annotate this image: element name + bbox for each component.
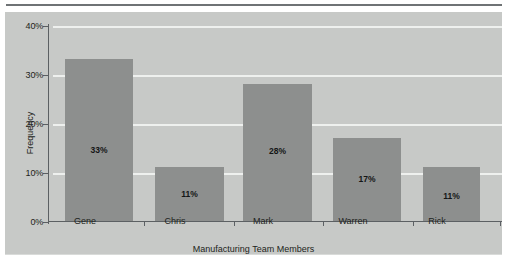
bar-mark[interactable]: 28% xyxy=(243,84,312,221)
top-divider-rule xyxy=(6,4,502,6)
panel-bottom-edge xyxy=(5,254,502,255)
bar-warren[interactable]: 17% xyxy=(333,138,401,221)
gridline-40 xyxy=(53,26,502,28)
y-tick-label-40: 40% xyxy=(26,21,43,31)
y-tick-label-20: 20% xyxy=(26,119,43,129)
x-tick-label-mark: Mark xyxy=(213,216,313,226)
y-tick-mark-20 xyxy=(43,124,48,125)
bar-value-rick: 11% xyxy=(423,191,480,201)
bar-value-gene: 33% xyxy=(65,145,133,155)
chart-screenshot: Frequency 40% 30% 20% 10% xyxy=(0,0,510,265)
x-axis-title: Manufacturing Team Members xyxy=(5,244,502,254)
x-tick-label-rick: Rick xyxy=(387,216,487,226)
bar-rick[interactable]: 11% xyxy=(423,167,480,221)
bar-value-mark: 28% xyxy=(243,146,312,156)
x-tick-mark-5 xyxy=(500,222,501,226)
chart-panel: Frequency 40% 30% 20% 10% xyxy=(5,12,502,254)
bar-gene[interactable]: 33% xyxy=(65,59,133,221)
bar-chris[interactable]: 11% xyxy=(155,167,224,221)
x-tick-label-gene: Gene xyxy=(35,216,135,226)
bar-value-chris: 11% xyxy=(155,189,224,199)
y-tick-mark-30 xyxy=(43,75,48,76)
y-tick-label-30: 30% xyxy=(26,70,43,80)
bar-value-warren: 17% xyxy=(333,174,401,184)
y-tick-mark-10 xyxy=(43,173,48,174)
y-tick-mark-40 xyxy=(43,26,48,27)
plot-area: 40% 30% 20% 10% 0% 33% xyxy=(48,26,502,222)
y-axis-line xyxy=(48,24,49,224)
y-tick-label-10: 10% xyxy=(26,168,43,178)
x-tick-label-chris: Chris xyxy=(125,216,225,226)
